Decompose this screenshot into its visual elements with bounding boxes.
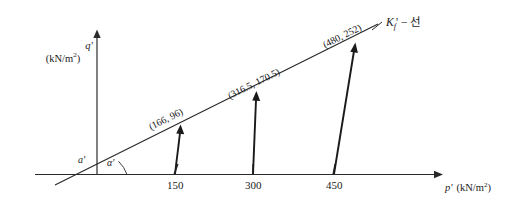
x-axis-symbol: p' [445,182,453,193]
y-axis-symbol: q' [57,40,121,51]
x-tick-label-300: 300 [245,180,262,192]
x-tick-label-450: 450 [326,180,343,192]
angle-arc [119,161,128,174]
y-axis-caption: q' (kN/m2) [31,40,95,63]
kf-line-stress-path-figure: q' (kN/m2) p' (kN/m2) a' α' (166, 96) (3… [0,0,507,211]
x-axis-ticks [174,164,335,175]
kf-line-label-suffix: − 선 [401,16,421,28]
stress-path-arrow-3-head [350,43,358,54]
kf-line-label-prime: ' [396,16,398,28]
stress-path-arrow-3-shaft [334,51,354,174]
stress-path-arrow-1-shaft [175,133,180,174]
kf-line-label-symbol: K [386,16,394,28]
stress-path-arrow-2-head [252,91,260,101]
x-axis-caption: p' (kN/m2) [445,178,491,195]
y-axis-arrowhead [93,30,100,39]
stress-path-arrow-2-shaft [253,100,256,174]
stress-path-arrow-2 [252,91,260,174]
x-axis-unit: (kN/m2) [457,182,491,193]
x-axis-arrowhead [434,171,443,178]
stress-path-arrow-1-head [176,125,184,135]
y-axis-unit: (kN/m2) [31,52,95,64]
kf-line-label: Kf' − 선 [386,16,421,32]
x-axis [35,171,443,178]
angle-label: α' [107,158,114,169]
stress-path-arrow-1 [175,125,184,175]
intercept-label: a' [78,155,85,166]
stress-path-arrow-3 [334,43,358,175]
x-tick-label-150: 150 [167,180,184,192]
